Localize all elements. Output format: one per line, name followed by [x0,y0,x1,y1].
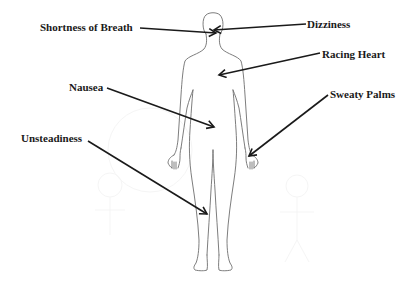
arrow-shortness-of-breath [140,28,216,33]
body-outline [168,13,258,271]
label-dizziness: Dizziness [307,18,350,30]
label-sweaty-palms: Sweaty Palms [330,88,395,100]
label-nausea: Nausea [69,81,103,93]
symptom-body-diagram: Shortness of Breath Dizziness Racing Hea… [0,0,414,286]
label-racing-heart: Racing Heart [322,48,385,60]
arrow-dizziness [214,24,306,30]
arrows [88,24,328,214]
label-unsteadiness: Unsteadiness [21,132,82,144]
label-shortness-of-breath: Shortness of Breath [40,21,133,33]
arrow-nausea [107,88,214,127]
arrow-sweaty-palms [249,95,328,156]
